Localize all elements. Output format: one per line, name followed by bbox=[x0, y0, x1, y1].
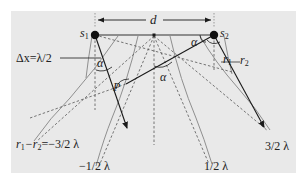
alpha-label-s1: α bbox=[97, 56, 104, 70]
delta-x-label: Δx=λ/2 bbox=[16, 51, 52, 65]
midpoint-marker bbox=[153, 34, 156, 37]
two-source-interference-diagram: d bbox=[0, 0, 303, 182]
alpha-label-center: α bbox=[160, 70, 167, 84]
order-plus-1-2-label: 1/2 λ bbox=[204, 159, 228, 173]
source-2-dot bbox=[210, 31, 218, 39]
alpha-label-s2: α bbox=[191, 35, 198, 49]
order-minus-1-2-label: −1/2 λ bbox=[79, 159, 110, 173]
order-minus-3-2-label: r1−r2=−3/2 λ bbox=[16, 137, 79, 152]
separation-label: d bbox=[150, 12, 157, 27]
source-1-dot bbox=[91, 31, 99, 39]
point-p-label: P bbox=[112, 80, 121, 94]
order-plus-3-2-label: 3/2 λ bbox=[265, 139, 289, 153]
